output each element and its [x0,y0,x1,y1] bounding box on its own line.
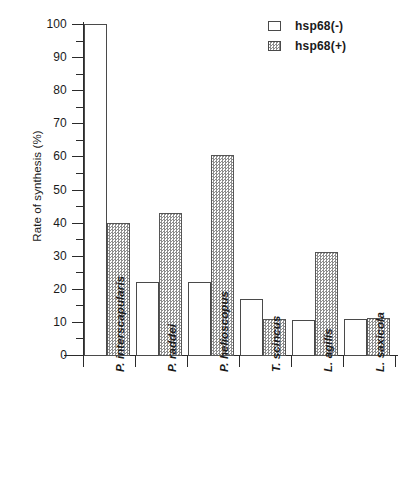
y-axis-tick-minor [76,74,83,75]
y-axis-tick-label: 0 [7,349,67,361]
y-axis-tick-major [72,90,83,91]
y-axis-tick-label: 30 [7,250,67,262]
y-axis-tick-label: 100 [7,18,67,30]
y-axis-tick-major [72,322,83,323]
x-axis-tick [83,356,84,367]
legend-item-hsp68-plus: hsp68(+) [268,37,398,54]
x-axis-tick [187,356,188,367]
x-axis-category-label: T. scincus [270,252,282,372]
bar [188,282,211,356]
y-axis-tick-label: 20 [7,283,67,295]
y-axis-tick-major [72,156,83,157]
x-axis-category-label: P. interscapularis [114,252,126,372]
y-axis-tick-label: 80 [7,84,67,96]
x-axis-category-label: L. saxicola [374,252,386,372]
y-axis-tick-major [72,24,83,25]
y-axis-tick-minor [76,338,83,339]
bar-chart: Rate of synthesis (%) 010203040506070809… [0,0,410,488]
x-axis-tick [135,356,136,367]
y-axis-tick-minor [76,206,83,207]
y-axis-tick-minor [76,107,83,108]
y-axis-tick-minor [76,140,83,141]
legend: hsp68(-) hsp68(+) [268,17,398,57]
y-axis-tick-minor [76,305,83,306]
bar [292,320,315,356]
y-axis-tick-label: 90 [7,51,67,63]
y-axis-tick-major [72,355,83,356]
legend-label: hsp68(+) [295,39,346,53]
y-axis-tick-major [72,289,83,290]
bar [240,299,263,356]
y-axis-tick-major [72,223,83,224]
x-axis-category-label: P. helioscopus [218,252,230,372]
bar [84,24,107,356]
y-axis-tick-minor [76,239,83,240]
y-axis-tick-major [72,57,83,58]
y-axis-tick-major [72,190,83,191]
y-axis-tick-label: 10 [7,316,67,328]
x-axis-tick [343,356,344,367]
bar [136,282,159,356]
x-axis-tick [395,356,396,367]
y-axis-tick-label: 60 [7,150,67,162]
y-axis-tick-minor [76,272,83,273]
y-axis-tick-label: 50 [7,184,67,196]
y-axis-tick-minor [76,41,83,42]
bar [344,319,367,356]
x-axis-category-label: P. raddei [166,252,178,372]
x-axis-tick [291,356,292,367]
y-axis-tick-label: 40 [7,217,67,229]
y-axis-tick-major [72,123,83,124]
legend-swatch-open-icon [268,21,281,31]
legend-label: hsp68(-) [295,19,343,33]
y-axis-tick-minor [76,173,83,174]
x-axis-category-label: L. agilis [322,252,334,372]
x-axis-tick [239,356,240,367]
y-axis-tick-label: 70 [7,117,67,129]
legend-item-hsp68-minus: hsp68(-) [268,17,398,34]
y-axis-tick-major [72,256,83,257]
legend-swatch-hatched-icon [268,41,281,51]
